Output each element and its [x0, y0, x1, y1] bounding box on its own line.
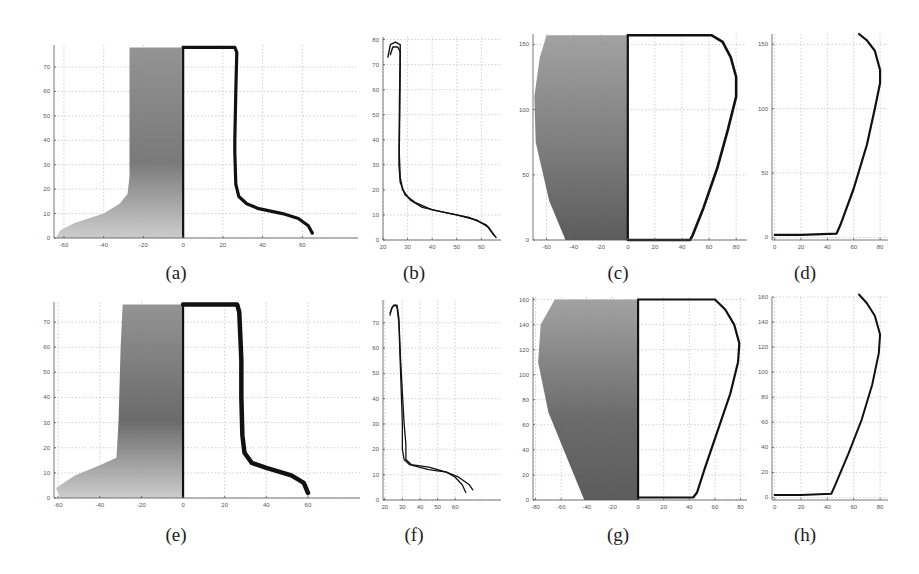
svg-text:0: 0: [181, 242, 185, 248]
chart-c: -60-40-20020406080050100150: [533, 34, 747, 240]
svg-text:20: 20: [652, 244, 659, 250]
svg-text:20: 20: [43, 186, 50, 192]
svg-text:150: 150: [519, 41, 530, 47]
svg-text:80: 80: [877, 244, 884, 250]
svg-text:80: 80: [761, 394, 768, 400]
svg-text:40: 40: [429, 244, 436, 250]
svg-text:0: 0: [526, 237, 530, 243]
svg-text:40: 40: [679, 244, 686, 250]
svg-text:50: 50: [761, 170, 768, 176]
svg-text:-20: -20: [137, 502, 146, 508]
svg-text:50: 50: [372, 370, 379, 376]
svg-text:0: 0: [47, 235, 51, 241]
svg-text:60: 60: [452, 504, 459, 510]
svg-text:100: 100: [758, 369, 769, 375]
svg-text:0: 0: [765, 494, 769, 500]
svg-text:60: 60: [850, 504, 857, 510]
caption-c: (c): [588, 262, 648, 284]
caption-g: (g): [588, 524, 648, 546]
svg-text:80: 80: [877, 504, 884, 510]
svg-text:20: 20: [221, 502, 228, 508]
svg-text:30: 30: [43, 420, 50, 426]
chart-d: 020406080050100150: [772, 34, 888, 240]
svg-text:30: 30: [404, 244, 411, 250]
grid-lines: [772, 297, 888, 500]
svg-text:-60: -60: [54, 502, 63, 508]
caption-f: (f): [384, 524, 444, 546]
chart-panel-c: -60-40-20020406080050100150: [533, 34, 747, 240]
caption-e: (e): [146, 524, 206, 546]
svg-text:60: 60: [43, 344, 50, 350]
svg-text:-40: -40: [569, 244, 578, 250]
svg-text:20: 20: [761, 469, 768, 475]
chart-e: -60-40-200204060010203040506070: [54, 302, 360, 498]
svg-text:-60: -60: [542, 244, 551, 250]
svg-text:20: 20: [660, 504, 667, 510]
svg-text:30: 30: [43, 162, 50, 168]
chart-panel-f: 2030405060010203040506070: [383, 300, 501, 500]
svg-text:0: 0: [526, 497, 530, 503]
svg-text:70: 70: [372, 320, 379, 326]
chart-b: 203040506001020304050607080: [383, 37, 501, 240]
svg-text:100: 100: [758, 106, 769, 112]
svg-text:50: 50: [372, 112, 379, 118]
sherd-texture: [538, 300, 637, 500]
svg-text:20: 20: [522, 472, 529, 478]
svg-text:60: 60: [305, 502, 312, 508]
svg-text:20: 20: [798, 244, 805, 250]
svg-text:60: 60: [522, 422, 529, 428]
profile-line: [638, 300, 739, 498]
svg-text:20: 20: [798, 504, 805, 510]
svg-text:50: 50: [434, 504, 441, 510]
sherd-texture: [534, 35, 627, 240]
svg-text:-60: -60: [60, 242, 69, 248]
svg-text:140: 140: [758, 319, 769, 325]
svg-text:60: 60: [372, 87, 379, 93]
svg-text:80: 80: [372, 37, 379, 43]
svg-text:40: 40: [824, 504, 831, 510]
chart-g: -80-60-40-200204060800204060801001201401…: [533, 297, 747, 500]
svg-text:40: 40: [686, 504, 693, 510]
svg-text:60: 60: [372, 345, 379, 351]
svg-text:20: 20: [372, 187, 379, 193]
svg-text:0: 0: [376, 237, 380, 243]
svg-text:20: 20: [380, 244, 387, 250]
chart-panel-g: -80-60-40-200204060800204060801001201401…: [533, 297, 747, 500]
svg-text:-40: -40: [95, 502, 104, 508]
svg-text:-80: -80: [531, 504, 540, 510]
svg-text:30: 30: [372, 162, 379, 168]
svg-text:60: 60: [761, 419, 768, 425]
chart-panel-h: 020406080020406080100120140160: [772, 297, 888, 500]
svg-text:-20: -20: [596, 244, 605, 250]
grid-lines: [383, 300, 501, 500]
chart-panel-b: 203040506001020304050607080: [383, 37, 501, 240]
svg-text:60: 60: [478, 244, 485, 250]
profile-line: [183, 305, 308, 493]
chart-a: -60-40-200204060010203040506070: [54, 45, 358, 238]
svg-text:-20: -20: [139, 242, 148, 248]
svg-text:60: 60: [299, 242, 306, 248]
chart-panel-d: 020406080050100150: [772, 34, 888, 240]
svg-text:-40: -40: [582, 504, 591, 510]
svg-text:60: 60: [712, 504, 719, 510]
profile-line: [390, 47, 493, 235]
svg-text:60: 60: [850, 244, 857, 250]
svg-text:40: 40: [43, 137, 50, 143]
svg-text:0: 0: [376, 497, 380, 503]
chart-panel-e: -60-40-200204060010203040506070: [54, 302, 360, 498]
grid-lines: [54, 45, 358, 238]
caption-d: (d): [775, 262, 835, 284]
svg-text:30: 30: [399, 504, 406, 510]
svg-text:120: 120: [519, 347, 530, 353]
svg-text:-20: -20: [608, 504, 617, 510]
svg-text:40: 40: [761, 444, 768, 450]
svg-text:70: 70: [372, 62, 379, 68]
svg-text:60: 60: [706, 244, 713, 250]
caption-b: (b): [384, 262, 444, 284]
svg-text:10: 10: [372, 212, 379, 218]
svg-text:50: 50: [43, 113, 50, 119]
profile-line: [775, 294, 880, 494]
svg-text:80: 80: [737, 504, 744, 510]
svg-text:10: 10: [372, 472, 379, 478]
svg-text:40: 40: [372, 137, 379, 143]
